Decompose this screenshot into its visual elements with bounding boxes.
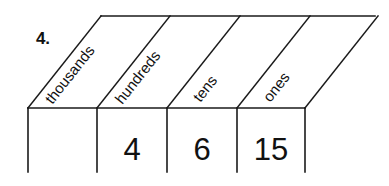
value-cell-hundreds: 4 (98, 134, 166, 165)
header-slant-edge-right (305, 16, 378, 108)
value-cell-tens: 6 (168, 134, 236, 165)
value-cell-ones: 15 (237, 134, 305, 165)
worksheet-problem: 4. thousands hundreds tens ones (0, 0, 389, 186)
